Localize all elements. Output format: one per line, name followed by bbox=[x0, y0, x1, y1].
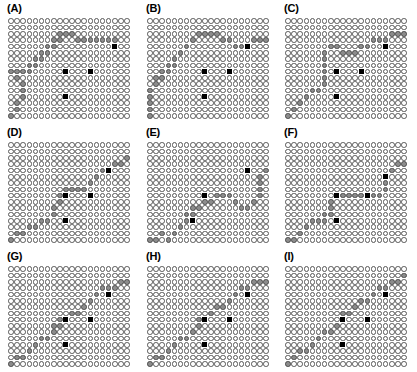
cell-empty bbox=[245, 193, 251, 199]
cell-empty bbox=[297, 50, 303, 56]
cell-empty bbox=[214, 231, 220, 237]
cell-empty bbox=[297, 329, 303, 335]
cell-empty bbox=[310, 113, 316, 119]
cell-empty bbox=[69, 348, 75, 354]
cell-empty bbox=[208, 285, 214, 291]
cell-empty bbox=[112, 75, 118, 81]
cell-empty bbox=[285, 100, 291, 106]
cell-empty bbox=[220, 292, 226, 298]
cell-marker bbox=[245, 168, 250, 173]
cell-empty bbox=[245, 37, 251, 43]
cell-empty bbox=[39, 18, 45, 24]
cell-empty bbox=[310, 31, 316, 37]
cell-empty bbox=[14, 50, 20, 56]
cell-empty bbox=[33, 180, 39, 186]
cell-empty bbox=[63, 168, 69, 174]
cell-empty bbox=[75, 317, 81, 323]
cell-empty bbox=[196, 44, 202, 50]
cell-empty bbox=[304, 355, 310, 361]
cell-empty bbox=[208, 342, 214, 348]
cell-empty bbox=[328, 149, 334, 155]
cell-empty bbox=[334, 311, 340, 317]
cell-empty bbox=[383, 63, 389, 69]
cell-empty bbox=[63, 292, 69, 298]
cell-empty bbox=[304, 69, 310, 75]
cell-empty bbox=[94, 75, 100, 81]
cell-empty bbox=[94, 25, 100, 31]
cell-empty bbox=[389, 100, 395, 106]
cell-empty bbox=[75, 174, 81, 180]
cell-path bbox=[257, 37, 263, 43]
cell-empty bbox=[377, 336, 383, 342]
cell-path bbox=[263, 279, 269, 285]
cell-empty bbox=[220, 180, 226, 186]
cell-empty bbox=[14, 155, 20, 161]
cell-empty bbox=[33, 37, 39, 43]
cell-empty bbox=[263, 311, 269, 317]
cell-empty bbox=[208, 361, 214, 367]
cell-path bbox=[45, 218, 51, 224]
cell-empty bbox=[172, 69, 178, 75]
cell-empty bbox=[75, 231, 81, 237]
cell-empty bbox=[20, 279, 26, 285]
cell-empty bbox=[208, 237, 214, 243]
cell-empty bbox=[202, 50, 208, 56]
cell-empty bbox=[118, 361, 124, 367]
cell-empty bbox=[365, 273, 371, 279]
cell-empty bbox=[190, 237, 196, 243]
cell-empty bbox=[118, 69, 124, 75]
cell-empty bbox=[346, 224, 352, 230]
cell-empty bbox=[245, 155, 251, 161]
cell-empty bbox=[365, 63, 371, 69]
cell-empty bbox=[147, 205, 153, 211]
cell-empty bbox=[39, 168, 45, 174]
cell-empty bbox=[220, 231, 226, 237]
cell-empty bbox=[184, 292, 190, 298]
cell-path bbox=[239, 205, 245, 211]
cell-empty bbox=[233, 56, 239, 62]
cell-empty bbox=[27, 94, 33, 100]
cell-empty bbox=[166, 149, 172, 155]
cell-empty bbox=[45, 329, 51, 335]
cell-empty bbox=[233, 142, 239, 148]
cell-empty bbox=[291, 88, 297, 94]
cell-empty bbox=[124, 348, 130, 354]
cell-path bbox=[69, 187, 75, 193]
cell-empty bbox=[51, 218, 57, 224]
cell-empty bbox=[401, 342, 407, 348]
cell-empty bbox=[51, 224, 57, 230]
cell-empty bbox=[124, 205, 130, 211]
cell-path bbox=[166, 348, 172, 354]
cell-empty bbox=[14, 237, 20, 243]
cell-empty bbox=[233, 285, 239, 291]
cell-empty bbox=[57, 142, 63, 148]
cell-empty bbox=[358, 323, 364, 329]
cell-empty bbox=[14, 142, 20, 148]
cell-empty bbox=[310, 279, 316, 285]
cell-empty bbox=[51, 161, 57, 167]
cell-empty bbox=[334, 18, 340, 24]
cell-marker bbox=[88, 69, 93, 74]
cell-empty bbox=[184, 161, 190, 167]
cell-empty bbox=[389, 81, 395, 87]
cell-empty bbox=[297, 18, 303, 24]
cell-empty bbox=[94, 329, 100, 335]
cell-empty bbox=[100, 355, 106, 361]
cell-empty bbox=[263, 155, 269, 161]
cell-empty bbox=[202, 63, 208, 69]
cell-empty bbox=[27, 336, 33, 342]
cell-empty bbox=[45, 155, 51, 161]
cell-empty bbox=[112, 311, 118, 317]
cell-empty bbox=[371, 18, 377, 24]
cell-empty bbox=[81, 56, 87, 62]
cell-empty bbox=[202, 187, 208, 193]
cell-empty bbox=[45, 224, 51, 230]
cell-empty bbox=[263, 31, 269, 37]
cell-empty bbox=[251, 149, 257, 155]
cell-empty bbox=[166, 107, 172, 113]
cell-empty bbox=[172, 168, 178, 174]
cell-empty bbox=[395, 342, 401, 348]
cell-empty bbox=[14, 94, 20, 100]
cell-empty bbox=[39, 224, 45, 230]
cell-empty bbox=[184, 193, 190, 199]
